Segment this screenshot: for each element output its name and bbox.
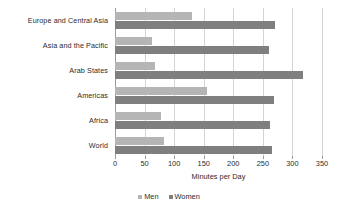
bar-group: [115, 33, 322, 58]
legend-label-women: Women: [175, 192, 200, 201]
bar-group: [115, 108, 322, 133]
gridline: [322, 8, 323, 158]
bar-group: [115, 133, 322, 158]
category-label: Arab States: [0, 58, 112, 83]
x-tick-mark: [233, 156, 234, 159]
x-tick-mark: [115, 156, 116, 159]
category-label: Americas: [0, 83, 112, 108]
x-tick-label: 50: [140, 159, 148, 168]
x-tick-label: 250: [257, 159, 269, 168]
bar-group: [115, 83, 322, 108]
category-label: Asia and the Pacific: [0, 33, 112, 58]
legend-item-men: Men: [138, 192, 158, 201]
x-tick-mark: [174, 156, 175, 159]
x-tick-label: 150: [198, 159, 210, 168]
axis-title: Minutes per Day: [115, 172, 322, 181]
bar-women: [115, 71, 303, 79]
bar-women: [115, 146, 272, 154]
bar-women: [115, 121, 270, 129]
x-tick-mark: [204, 156, 205, 159]
x-tick-mark: [292, 156, 293, 159]
bar-rows: [115, 8, 322, 158]
bar-men: [115, 62, 155, 70]
plot-area: [115, 8, 322, 158]
bar-group: [115, 58, 322, 83]
x-tick-label: 350: [316, 159, 328, 168]
category-label: Africa: [0, 108, 112, 133]
category-label: World: [0, 133, 112, 158]
x-tick-mark: [145, 156, 146, 159]
bar-chart: Europe and Central Asia Asia and the Pac…: [0, 0, 338, 216]
legend-label-men: Men: [144, 192, 158, 201]
bar-group: [115, 8, 322, 33]
value-axis-ticks: 050100150200250300350: [115, 159, 322, 171]
legend-swatch-men-icon: [138, 195, 142, 199]
legend-swatch-women-icon: [169, 195, 173, 199]
x-tick-label: 200: [227, 159, 239, 168]
bar-women: [115, 21, 275, 29]
bar-women: [115, 46, 269, 54]
bar-men: [115, 37, 152, 45]
x-tick-mark: [263, 156, 264, 159]
category-label: Europe and Central Asia: [0, 8, 112, 33]
category-axis-labels: Europe and Central Asia Asia and the Pac…: [0, 8, 112, 158]
bar-men: [115, 137, 164, 145]
chart-legend: Men Women: [0, 192, 338, 201]
bar-men: [115, 87, 207, 95]
x-tick-label: 300: [286, 159, 298, 168]
x-tick-label: 0: [113, 159, 117, 168]
x-tick-label: 100: [168, 159, 180, 168]
bar-men: [115, 12, 192, 20]
bar-men: [115, 112, 161, 120]
bar-women: [115, 96, 274, 104]
legend-item-women: Women: [169, 192, 200, 201]
x-tick-mark: [322, 156, 323, 159]
